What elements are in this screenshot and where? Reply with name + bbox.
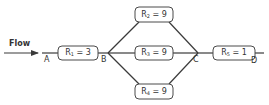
resistor-network-diagram: Flow A B C D R1 = 3 R2 = 9 R3 = 9 R4 = 9… (0, 0, 269, 105)
flow-label: Flow (9, 40, 30, 48)
node-c-label: C (193, 56, 199, 64)
wire-r2-c (169, 22, 198, 53)
resistor-r1-label: R1 = 3 (65, 49, 91, 57)
resistor-r2-label: R2 = 9 (141, 11, 167, 19)
resistor-r5-label: R5 = 1 (221, 49, 247, 57)
resistor-r4-label: R4 = 9 (141, 88, 167, 96)
node-b-label: B (101, 56, 107, 64)
resistor-r3-label: R3 = 9 (141, 49, 167, 57)
wire-b-r4 (108, 53, 139, 84)
node-a-label: A (44, 56, 49, 64)
node-d-label: D (251, 57, 257, 65)
wire-b-r2 (108, 22, 139, 53)
